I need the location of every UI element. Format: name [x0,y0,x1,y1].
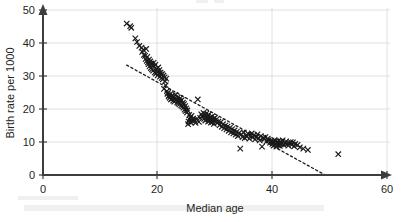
y-tick-label: 10 [23,136,35,148]
data-point-marker [259,144,264,149]
y-axis-title: Birth rate per 1000 [4,47,16,138]
data-point-marker [195,97,200,102]
x-tick-labels: 0 20 40 60 [40,183,393,195]
x-tick-label: 0 [40,183,46,195]
data-point-marker [129,25,134,30]
scan-artifacts [18,0,324,211]
y-tick-label: 30 [23,70,35,82]
y-tick-label: 20 [23,103,35,115]
scatter-chart: 0 10 20 30 40 50 0 20 40 60 Birth rate p… [0,0,407,222]
y-tick-label: 50 [23,4,35,16]
trend-line [127,65,325,175]
x-tick-label: 40 [266,183,278,195]
gridlines [43,8,390,175]
y-tick-label: 40 [23,37,35,49]
y-tick-label: 0 [29,169,35,181]
data-point-marker [305,147,310,152]
data-points [124,21,341,157]
data-point-marker [238,146,243,151]
y-tick-labels: 0 10 20 30 40 50 [23,4,35,181]
x-tick-label: 20 [151,183,163,195]
x-axis-title: Median age [186,202,244,214]
x-tick-label: 60 [381,183,393,195]
chart-canvas: 0 10 20 30 40 50 0 20 40 60 Birth rate p… [0,0,407,222]
data-point-marker [336,152,341,157]
